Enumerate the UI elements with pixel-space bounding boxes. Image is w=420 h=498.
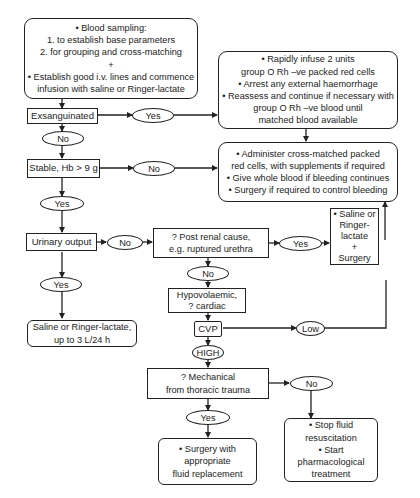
box-line: • Arrest any external haemorrhage	[238, 78, 378, 90]
oval-label: Yes	[54, 280, 69, 290]
exsanguinated-label: Exsanguinated	[31, 110, 94, 122]
surgery-fluid-box: • Surgery with appropriate fluid replace…	[158, 438, 257, 485]
stable-no-oval: No	[133, 161, 175, 176]
box-line: resuscitation	[305, 432, 357, 444]
box-line: pharmacological	[298, 456, 365, 468]
stable-hb-box: Stable, Hb > 9 g	[27, 159, 100, 178]
oval-label: Yes	[201, 413, 216, 423]
mechanical-yes-oval: Yes	[186, 410, 230, 425]
oval-label: No	[57, 134, 69, 144]
box-line: • Stop fluid	[309, 419, 353, 431]
box-line: from thoracic trauma	[166, 384, 250, 396]
oval-label: Yes	[55, 199, 70, 209]
box-line: • Start	[318, 444, 343, 456]
box-line: lactate	[341, 231, 368, 242]
mechanical-no-oval: No	[290, 376, 333, 391]
box-line: • Blood sampling:	[75, 22, 146, 34]
oval-label: Yes	[146, 111, 161, 121]
exsanguinated-box: Exsanguinated	[27, 108, 98, 124]
stable-yes-oval: Yes	[40, 196, 84, 211]
urinary-no-oval: No	[107, 235, 143, 250]
box-line: • Surgery with	[179, 443, 236, 455]
post-renal-box: ? Post renal cause, e.g. ruptured urethr…	[153, 228, 269, 258]
box-line: group O Rh –ve blood until	[253, 102, 362, 114]
oval-label: Low	[302, 324, 319, 334]
box-line: 2. for grouping and cross-matching	[40, 46, 182, 58]
oval-label: HIGH	[197, 348, 220, 358]
box-line: treatment	[312, 468, 351, 480]
post-renal-yes-oval: Yes	[279, 236, 322, 251]
box-line: Saline or Ringer-lactate,	[33, 321, 132, 333]
oval-label: No	[306, 379, 318, 389]
oval-label: No	[148, 164, 160, 174]
box-line: • Administer cross-matched packed	[236, 148, 380, 160]
box-line: infusion with saline or Ringer-lactate	[37, 83, 185, 95]
box-line: e.g. ruptured urethra	[169, 243, 253, 255]
box-line: 1. to establish base parameters	[47, 34, 175, 46]
oval-label: No	[119, 238, 131, 248]
urinary-label: Urinary output	[32, 236, 92, 248]
rapid-infuse-box: • Rapidly infuse 2 units group O Rh –ve …	[218, 51, 398, 129]
box-line: Hypovolaemic,	[177, 290, 237, 301]
cvp-box: CVP	[194, 321, 222, 337]
blood-sampling-box: • Blood sampling: 1. to establish base p…	[24, 18, 198, 99]
exsanguinated-no-oval: No	[42, 131, 84, 146]
cvp-high-oval: HIGH	[192, 345, 224, 360]
box-line: up to 3 L/24 h	[54, 334, 110, 346]
hypovolaemic-box: Hypovolaemic, ? cardiac	[168, 288, 246, 313]
post-renal-no-oval: No	[187, 266, 229, 281]
mechanical-thoracic-box: ? Mechanical from thoracic trauma	[147, 368, 269, 399]
box-line: • Reassess and continue if necessary wit…	[222, 90, 394, 102]
saline-surgery-box: • Saline or Ringer- lactate + Surgery	[330, 208, 379, 265]
box-line: ? Mechanical	[181, 371, 235, 383]
urinary-output-box: Urinary output	[26, 233, 97, 251]
oval-label: Yes	[293, 239, 308, 249]
box-line: Ringer-	[339, 220, 369, 231]
box-line: • Give whole blood if bleeding continues	[227, 172, 390, 184]
box-line: fluid replacement	[173, 468, 243, 480]
box-line: group O Rh –ve packed red cells	[241, 66, 375, 78]
box-line: • Saline or	[333, 209, 375, 220]
stable-label: Stable, Hb > 9 g	[29, 162, 97, 174]
box-line: Surgery	[338, 253, 370, 264]
stop-fluid-box: • Stop fluid resuscitation • Start pharm…	[284, 418, 378, 482]
box-line: • Establish good i.v. lines and commence	[28, 71, 194, 83]
cvp-low-oval: Low	[296, 321, 325, 336]
box-line: • Surgery if required to control bleedin…	[229, 184, 388, 196]
urinary-yes-oval: Yes	[40, 277, 82, 292]
administer-blood-box: • Administer cross-matched packed red ce…	[218, 142, 398, 202]
box-line: • Rapidly infuse 2 units	[261, 53, 354, 65]
box-line: +	[108, 59, 113, 71]
box-line: ? Post renal cause,	[172, 231, 251, 243]
oval-label: No	[202, 269, 214, 279]
box-line: appropriate	[184, 455, 230, 467]
box-line: +	[352, 242, 357, 253]
exsanguinated-yes-oval: Yes	[132, 108, 174, 123]
box-line: red cells, with supplements if required	[231, 160, 385, 172]
cvp-label: CVP	[198, 323, 218, 335]
box-line: matched blood available	[258, 114, 357, 126]
saline-ringer-box: Saline or Ringer-lactate, up to 3 L/24 h	[27, 320, 137, 347]
box-line: ? cardiac	[188, 301, 225, 312]
